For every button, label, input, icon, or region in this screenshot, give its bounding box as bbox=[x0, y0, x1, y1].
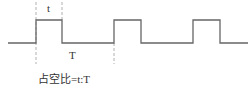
square-wave bbox=[8, 20, 248, 43]
pulse-width-label: t bbox=[47, 3, 50, 14]
period-label: T bbox=[69, 50, 76, 61]
duty-cycle-caption: 占空比=t:T bbox=[38, 74, 90, 85]
duty-cycle-diagram: t T 占空比=t:T bbox=[0, 0, 249, 90]
